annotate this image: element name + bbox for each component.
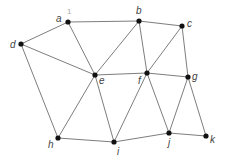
edge-g-k [188, 77, 206, 136]
node-g [185, 74, 190, 79]
node-label-c: c [187, 18, 192, 29]
edge-d-e [21, 44, 95, 75]
edge-b-e [95, 21, 139, 75]
edge-a-d [21, 22, 68, 44]
edge-f-g [147, 73, 188, 77]
node-label-d: d [10, 39, 16, 50]
node-label-g: g [192, 71, 198, 82]
edge-a-e [68, 22, 95, 75]
node-i [111, 139, 116, 144]
node-j [166, 130, 171, 135]
edge-c-f [147, 26, 182, 73]
edge-a-b [68, 21, 139, 22]
node-label-j: j [166, 137, 171, 148]
edge-c-g [182, 26, 188, 77]
edge-d-h [21, 44, 58, 138]
graph-diagram: abcdefghijk 1 [0, 0, 225, 160]
edge-j-k [169, 133, 206, 136]
edge-f-i [114, 73, 147, 142]
node-label-b: b [136, 5, 142, 16]
node-d [18, 41, 23, 46]
node-e [92, 72, 97, 77]
edge-b-f [139, 21, 147, 73]
node-f [144, 70, 149, 75]
edge-h-i [58, 138, 114, 142]
node-label-i: i [117, 146, 120, 157]
node-label-e: e [99, 75, 105, 86]
annotation-number: 1 [67, 7, 72, 16]
nodes-layer [18, 18, 208, 144]
edge-g-j [169, 77, 188, 133]
edge-i-j [114, 133, 169, 142]
edge-f-j [147, 73, 169, 133]
node-label-h: h [48, 139, 54, 150]
edges-layer [21, 21, 206, 142]
node-a [65, 19, 70, 24]
node-b [136, 18, 141, 23]
node-label-k: k [210, 134, 216, 145]
node-h [55, 135, 60, 140]
edge-e-h [58, 75, 95, 138]
edge-b-c [139, 21, 182, 26]
node-label-a: a [56, 13, 62, 24]
node-k [203, 133, 208, 138]
node-c [179, 23, 184, 28]
